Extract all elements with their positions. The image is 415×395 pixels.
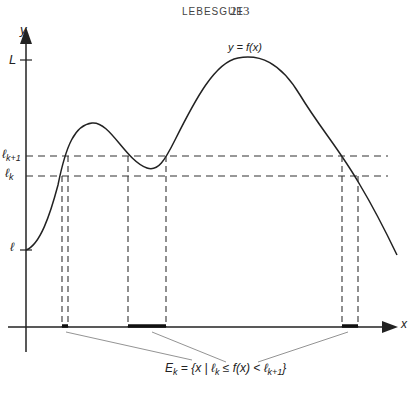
connector-1 xyxy=(66,332,192,360)
x-axis-label: x xyxy=(401,317,407,331)
set-E: E xyxy=(165,361,173,375)
connector-2 xyxy=(152,332,226,362)
tick-label-lk: ℓk xyxy=(5,166,13,182)
x-axis-arrow-icon xyxy=(382,321,398,333)
curve-label: y = f(x) xyxy=(228,41,262,53)
tick-label-L: L xyxy=(9,52,16,67)
lk-sub: k xyxy=(9,172,14,182)
tick-label-lk1: ℓk+1 xyxy=(2,147,21,163)
lebesgue-diagram xyxy=(0,0,415,395)
set-def-part2: ≤ f(x) < ℓ xyxy=(219,361,267,375)
set-def-part3: } xyxy=(282,361,286,375)
tick-label-l: ℓ xyxy=(10,240,14,254)
set-definition: Ek = {x | ℓk ≤ f(x) < ℓk+1} xyxy=(165,361,286,377)
set-def-part1: = {x | ℓ xyxy=(178,361,215,375)
y-axis-label: y xyxy=(20,22,27,37)
connector-3 xyxy=(258,332,348,362)
lk1-sub: k+1 xyxy=(6,153,21,163)
set-def-sub2: k+1 xyxy=(268,367,283,377)
